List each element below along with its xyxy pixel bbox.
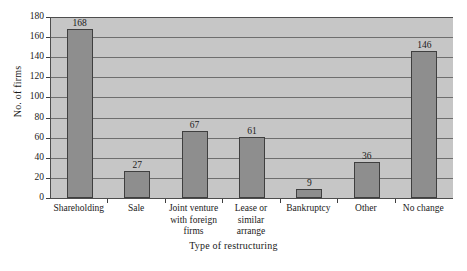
x-tick-label-line: arrange [214,226,287,238]
x-axis-ticks-and-labels: ShareholdingSaleJoint venturewith foreig… [0,0,467,271]
bar-chart: No. of firms 180160140120100806040200 16… [0,0,467,271]
x-axis-title: Type of restructuring [0,240,467,251]
x-tick-label-line: No change [387,203,460,215]
x-tick-label-line: similar [214,215,287,227]
x-tick-label: No change [387,203,460,215]
